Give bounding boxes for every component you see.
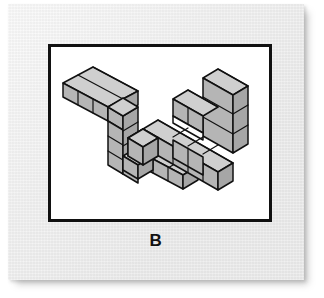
figure-panel: .top { fill:#cfcfcf; } .lft { fill:#b5b5… (48, 44, 272, 222)
figure-panel-inner: .top { fill:#cfcfcf; } .lft { fill:#b5b5… (51, 47, 269, 219)
left-figure (63, 67, 198, 189)
figure-card: .top { fill:#cfcfcf; } .lft { fill:#b5b5… (8, 4, 304, 280)
figure-label: B (8, 232, 304, 249)
block-figures-illustration: .top { fill:#cfcfcf; } .lft { fill:#b5b5… (51, 47, 269, 219)
screenshot-root: .top { fill:#cfcfcf; } .lft { fill:#b5b5… (0, 0, 324, 298)
